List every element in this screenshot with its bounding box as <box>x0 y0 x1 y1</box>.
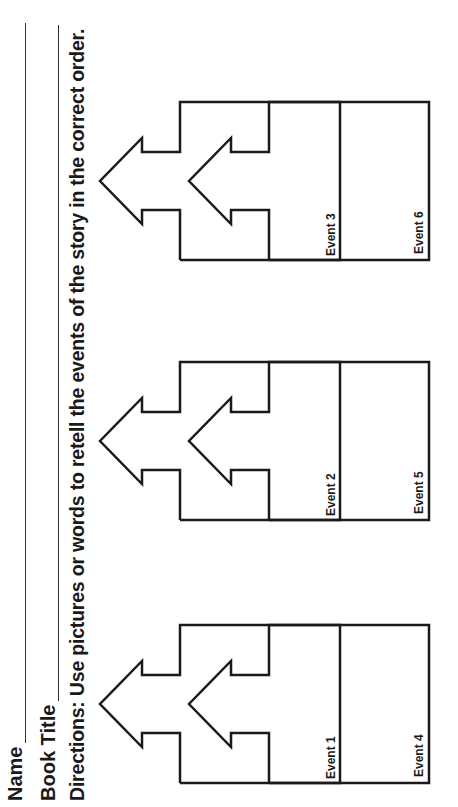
book-title-label: Book Title <box>37 705 59 801</box>
event-label: Event 1 <box>324 736 338 779</box>
arrow-box-shape <box>180 358 342 522</box>
name-label: Name <box>4 747 26 801</box>
worksheet-page: Name Book Title Directions: Use pictures… <box>0 0 458 807</box>
event-label: Event 3 <box>324 213 338 256</box>
event-label: Event 2 <box>324 473 338 516</box>
event-box-1[interactable]: Event 1 <box>180 621 342 785</box>
event-box-3[interactable]: Event 3 <box>180 98 342 262</box>
name-line[interactable] <box>7 23 26 743</box>
event-box-2[interactable]: Event 2 <box>180 358 342 522</box>
arrow-box-shape <box>180 98 342 262</box>
name-field: Name <box>4 23 26 801</box>
book-title-line[interactable] <box>40 25 59 701</box>
event-label: Event 4 <box>412 734 454 777</box>
book-title-field: Book Title <box>37 25 59 801</box>
event-label: Event 5 <box>412 471 454 514</box>
event-label: Event 6 <box>412 211 454 254</box>
arrow-box-shape <box>180 621 342 785</box>
directions-text: Directions: Use pictures or words to ret… <box>66 29 89 801</box>
